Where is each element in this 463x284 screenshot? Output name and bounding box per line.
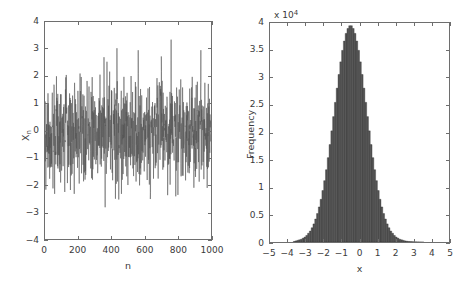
histogram-bar <box>365 102 367 242</box>
x-tick-mark <box>145 236 146 240</box>
y-tick-label: 1 <box>33 99 39 108</box>
y-tick-label: 1 <box>258 183 264 192</box>
x-tick-mark <box>212 236 213 240</box>
y-tick-mark <box>44 76 48 77</box>
histogram-bar <box>354 33 356 242</box>
y-tick-mark <box>208 48 212 49</box>
histogram-bar <box>309 231 311 242</box>
y-tick-label: 0 <box>258 239 264 248</box>
y-tick-label: 0.5 <box>250 211 264 220</box>
histogram-bar <box>377 191 379 242</box>
histogram-bar <box>368 131 370 242</box>
histogram-y-axis-multiplier: x 104 <box>274 9 298 20</box>
y-tick-mark <box>269 188 273 189</box>
y-tick-mark <box>446 105 450 106</box>
histogram-bar <box>302 238 304 242</box>
x-tick-mark <box>111 236 112 240</box>
x-tick-mark <box>378 239 379 243</box>
y-tick-mark <box>44 240 48 241</box>
histogram-bar <box>338 74 340 242</box>
y-tick-mark <box>44 131 48 132</box>
y-tick-mark <box>446 77 450 78</box>
figure-canvas: −4−3−2−101234 02004006008001000 n Xn 00.… <box>0 0 463 284</box>
y-tick-label: 3 <box>258 73 264 82</box>
y-tick-mark <box>208 103 212 104</box>
histogram-bar <box>358 50 360 242</box>
histogram-bars <box>270 23 449 242</box>
histogram-bar <box>399 239 401 242</box>
histogram-bar <box>317 214 319 242</box>
y-tick-mark <box>269 160 273 161</box>
histogram-bar <box>295 241 297 242</box>
x-tick-mark <box>269 239 270 243</box>
histogram-panel: 00.511.522.533.54 −5−4−3−2−1012345 x 104… <box>231 0 463 284</box>
y-tick-mark <box>446 133 450 134</box>
histogram-x-axis-title: x <box>249 263 463 274</box>
histogram-bar <box>318 207 320 242</box>
y-tick-mark <box>269 243 273 244</box>
histogram-bar <box>383 214 385 242</box>
y-tick-mark <box>44 213 48 214</box>
y-tick-mark <box>44 48 48 49</box>
histogram-bar <box>356 41 358 242</box>
y-tick-label: −2 <box>26 181 39 190</box>
histogram-bar <box>351 26 353 242</box>
y-tick-label: 3 <box>33 44 39 53</box>
multiplier-mantissa: x 10 <box>274 10 294 20</box>
histogram-bar <box>320 199 322 242</box>
histogram-bar <box>372 158 374 242</box>
histogram-bar <box>374 170 376 242</box>
y-tick-mark <box>208 131 212 132</box>
x-tick-mark <box>212 21 213 25</box>
x-tick-mark <box>111 21 112 25</box>
histogram-bar <box>406 241 408 242</box>
histogram-bar <box>367 117 369 242</box>
histogram-bar <box>349 26 351 242</box>
histogram-bar <box>329 145 331 242</box>
y-tick-label: −4 <box>26 236 39 245</box>
histogram-bar <box>381 207 383 242</box>
histogram-bar <box>313 224 315 242</box>
histogram-y-axis-title: Frequency <box>245 109 256 158</box>
histogram-bar <box>334 102 336 242</box>
x-tick-mark <box>287 239 288 243</box>
time-series-trace <box>45 22 211 239</box>
y-tick-mark <box>208 158 212 159</box>
y-tick-mark <box>269 77 273 78</box>
x-tick-mark <box>396 239 397 243</box>
x-tick-mark <box>341 22 342 26</box>
histogram-bar <box>343 41 345 242</box>
y-tick-mark <box>446 215 450 216</box>
y-tick-mark <box>208 76 212 77</box>
y-tick-label: 0 <box>33 126 39 135</box>
x-tick-mark <box>44 21 45 25</box>
x-tick-label: 1000 <box>190 246 234 255</box>
histogram-bar <box>401 240 403 242</box>
histogram-bar <box>327 158 329 242</box>
x-tick-mark <box>78 21 79 25</box>
histogram-bar <box>370 145 372 242</box>
histogram-bar <box>297 240 299 242</box>
histogram-bar <box>325 170 327 242</box>
histogram-bar <box>336 88 338 242</box>
x-tick-label: 5 <box>438 249 462 258</box>
histogram-bar <box>342 50 344 242</box>
x-tick-mark <box>414 239 415 243</box>
y-tick-label: −1 <box>26 153 39 162</box>
multiplier-exponent: 4 <box>294 9 298 17</box>
histogram-bar <box>331 131 333 242</box>
x-tick-mark <box>432 239 433 243</box>
histogram-bar <box>385 219 387 242</box>
histogram-bar <box>404 241 406 242</box>
histogram-bar <box>352 28 354 242</box>
x-tick-mark <box>323 239 324 243</box>
histogram-bar <box>360 62 362 242</box>
y-tick-mark <box>446 50 450 51</box>
y-tick-label: 4 <box>258 18 264 27</box>
histogram-bar <box>386 224 388 242</box>
y-tick-mark <box>208 240 212 241</box>
x-tick-mark <box>378 22 379 26</box>
y-tick-mark <box>44 158 48 159</box>
histogram-bar <box>397 238 399 242</box>
histogram-bar <box>408 241 410 242</box>
